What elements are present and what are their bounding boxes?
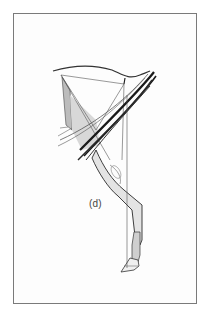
panel-label: (d) — [89, 198, 102, 209]
horse-forelimb-drawing — [0, 0, 212, 314]
